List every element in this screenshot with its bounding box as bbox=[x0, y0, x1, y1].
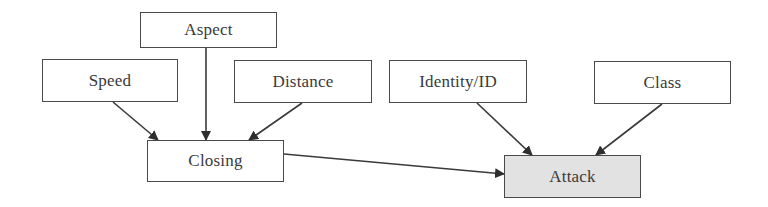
node-label: Distance bbox=[272, 72, 333, 92]
node-aspect: Aspect bbox=[140, 12, 277, 48]
node-label: Attack bbox=[549, 167, 596, 187]
node-distance: Distance bbox=[234, 60, 372, 103]
node-label: Class bbox=[644, 73, 682, 93]
edge-identity-to-attack bbox=[477, 103, 532, 155]
edge-distance-to-closing bbox=[249, 103, 302, 140]
node-label: Closing bbox=[188, 151, 242, 171]
node-closing: Closing bbox=[147, 140, 284, 182]
edge-speed-to-closing bbox=[113, 102, 158, 140]
node-label: Aspect bbox=[184, 20, 232, 40]
edge-class-to-attack bbox=[596, 104, 662, 155]
node-label: Identity/ID bbox=[419, 72, 497, 92]
node-identity: Identity/ID bbox=[389, 60, 527, 103]
node-class: Class bbox=[594, 61, 731, 104]
node-attack: Attack bbox=[504, 155, 641, 198]
edge-closing-to-attack bbox=[284, 154, 504, 174]
flow-diagram: Aspect Speed Distance Closing Identity/I… bbox=[0, 0, 768, 207]
node-speed: Speed bbox=[42, 59, 178, 102]
node-label: Speed bbox=[89, 71, 132, 91]
